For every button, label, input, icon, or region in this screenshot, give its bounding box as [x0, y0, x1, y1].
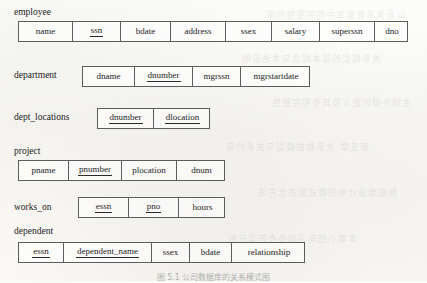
- attribute-row-project: pnamepnumberplocationdnum: [18, 160, 225, 181]
- attribute-cell-project-dnum: dnum: [177, 161, 226, 180]
- attribute-cell-dependent-relationship: relationship: [232, 243, 306, 262]
- attribute-cell-department-mgrstartdate: mgrstartdate: [241, 67, 311, 86]
- attribute-cell-project-plocation: plocation: [122, 161, 177, 180]
- attribute-ssex: ssex: [162, 248, 180, 257]
- attribute-dname: dname: [96, 72, 122, 81]
- attribute-row-department: dnamednumbermgrssnmgrstartdate: [82, 66, 310, 87]
- attribute-cell-employee-dno: dno: [375, 22, 409, 41]
- attribute-cell-works_on-hours: hours: [179, 198, 226, 217]
- attribute-cell-employee-address: address: [171, 22, 226, 41]
- relation-name-works_on: works_on: [14, 203, 51, 213]
- primary-key-attribute-pnumber: pnumber: [78, 165, 112, 176]
- attribute-relationship: relationship: [247, 248, 292, 257]
- relation-name-department: department: [14, 71, 57, 81]
- primary-key-attribute-dlocation: dlocation: [165, 113, 201, 124]
- attribute-dnum: dnum: [190, 166, 213, 175]
- attribute-cell-department-mgrssn: mgrssn: [193, 67, 241, 86]
- attribute-row-works_on: essnpnohours: [78, 197, 225, 218]
- primary-key-attribute-ssn: ssn: [90, 26, 104, 37]
- attribute-mgrssn: mgrssn: [202, 72, 230, 81]
- attribute-cell-dependent-dependent_name: dependent_name: [64, 243, 152, 262]
- attribute-cell-works_on-essn: essn: [79, 198, 129, 217]
- attribute-mgrstartdate: mgrstartdate: [253, 72, 300, 81]
- attribute-address: address: [184, 27, 213, 36]
- figure-caption: 图 5.1 公司数据库的关系模式图: [0, 273, 427, 283]
- relation-name-project: project: [14, 147, 40, 157]
- attribute-cell-dependent-bdate: bdate: [190, 243, 232, 262]
- attribute-cell-works_on-pno: pno: [129, 198, 179, 217]
- relation-name-dependent: dependent: [14, 227, 53, 237]
- attribute-cell-employee-salary: salary: [272, 22, 320, 41]
- attribute-cell-project-pname: pname: [19, 161, 69, 180]
- attribute-cell-employee-ssn: ssn: [73, 22, 121, 41]
- primary-key-attribute-essn: essn: [32, 247, 50, 258]
- attribute-cell-employee-ssex: ssex: [226, 22, 272, 41]
- attribute-dno: dno: [384, 27, 400, 36]
- attribute-cell-project-pnumber: pnumber: [69, 161, 122, 180]
- attribute-cell-dept_locations-dnumber: dnumber: [98, 109, 154, 128]
- attribute-bdate: bdate: [200, 248, 222, 257]
- attribute-cell-dependent-ssex: ssex: [152, 243, 190, 262]
- attribute-cell-department-dnumber: dnumber: [135, 67, 193, 86]
- attribute-row-dept_locations: dnumberdlocation: [97, 108, 210, 129]
- primary-key-attribute-essn: essn: [95, 202, 113, 213]
- attribute-cell-employee-superssn: superssn: [320, 22, 375, 41]
- primary-key-attribute-dnumber: dnumber: [147, 71, 181, 82]
- primary-key-attribute-pno: pno: [146, 202, 162, 213]
- attribute-cell-employee-bdate: bdate: [121, 22, 171, 41]
- attribute-plocation: plocation: [131, 166, 167, 175]
- primary-key-attribute-dependent_name: dependent_name: [76, 247, 139, 258]
- attribute-cell-department-dname: dname: [83, 67, 135, 86]
- attribute-bdate: bdate: [135, 27, 157, 36]
- primary-key-attribute-dnumber: dnumber: [109, 113, 143, 124]
- attribute-name: name: [35, 27, 57, 36]
- attribute-cell-employee-name: name: [19, 22, 73, 41]
- attribute-salary: salary: [284, 27, 308, 36]
- attribute-ssex: ssex: [240, 27, 258, 36]
- attribute-hours: hours: [192, 203, 214, 212]
- attribute-cell-dependent-essn: essn: [19, 243, 64, 262]
- attribute-row-employee: namessnbdateaddressssexsalarysuperssndno: [18, 21, 408, 42]
- attribute-superssn: superssn: [331, 27, 364, 36]
- relation-name-employee: employee: [14, 8, 51, 18]
- attribute-pname: pname: [31, 166, 57, 175]
- relation-name-dept_locations: dept_locations: [14, 113, 69, 123]
- attribute-row-dependent: essndependent_namessexbdaterelationship: [18, 242, 305, 263]
- attribute-cell-dept_locations-dlocation: dlocation: [154, 109, 211, 128]
